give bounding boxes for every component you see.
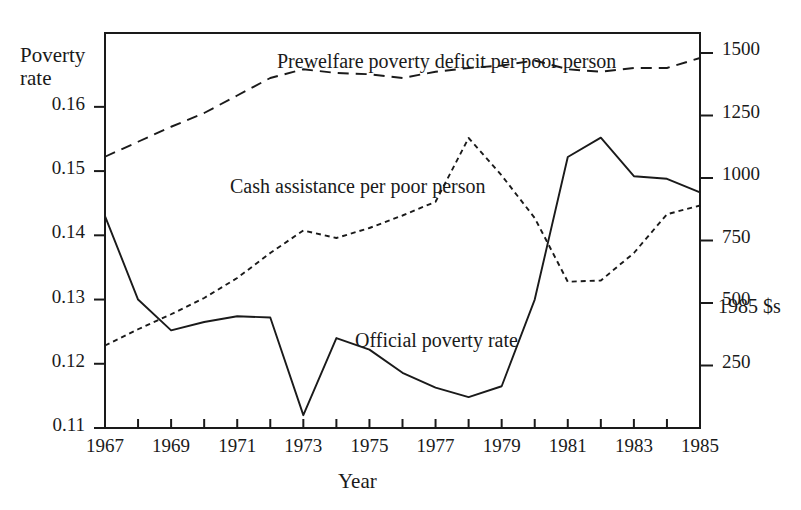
y-right-tick-label-250: 250 [722, 352, 751, 373]
y-right-tick-label-750: 750 [722, 227, 751, 248]
y-left-tick-label-0.14: 0.14 [52, 222, 85, 243]
x-tick-label-1975: 1975 [350, 436, 388, 457]
x-tick-label-1967: 1967 [86, 436, 124, 457]
plot-frame [105, 33, 700, 428]
series-annotation-1: Cash assistance per poor person [230, 176, 486, 198]
x-tick-label-1983: 1983 [615, 436, 653, 457]
y-axis-title: Poverty rate [20, 44, 85, 89]
y-right-tick-label-1500: 1500 [722, 39, 760, 60]
x-tick-label-1977: 1977 [417, 436, 455, 457]
y-left-tick-label-0.16: 0.16 [52, 94, 85, 115]
y-left-tick-label-0.12: 0.12 [52, 351, 85, 372]
axis-ticks [94, 53, 713, 428]
series-annotation-0: Official poverty rate [355, 330, 518, 352]
data-series-group [105, 58, 700, 415]
y-right-tick-label-1000: 1000 [722, 164, 760, 185]
x-tick-label-1973: 1973 [284, 436, 322, 457]
y-axis-title-line1: Poverty [20, 44, 85, 67]
chart-canvas [0, 0, 801, 510]
x-axis-title: Year [338, 470, 377, 493]
y-axis-title-line2: rate [20, 67, 85, 90]
y-left-tick-label-0.11: 0.11 [52, 415, 85, 436]
x-tick-label-1981: 1981 [549, 436, 587, 457]
series-line-2 [105, 58, 700, 157]
y-right-tick-label-500: 500 [722, 289, 751, 310]
y-left-tick-label-0.13: 0.13 [52, 287, 85, 308]
chart-figure: Poverty rate Year 1985 $s 19671969197119… [0, 0, 801, 510]
y-left-tick-label-0.15: 0.15 [52, 158, 85, 179]
x-tick-label-1971: 1971 [218, 436, 256, 457]
y-right-tick-label-1250: 1250 [722, 102, 760, 123]
x-tick-label-1979: 1979 [483, 436, 521, 457]
x-tick-label-1969: 1969 [152, 436, 190, 457]
series-line-1 [105, 138, 700, 346]
x-tick-label-1985: 1985 [681, 436, 719, 457]
series-annotation-2: Prewelfare poverty deficit per poor pers… [277, 51, 616, 73]
